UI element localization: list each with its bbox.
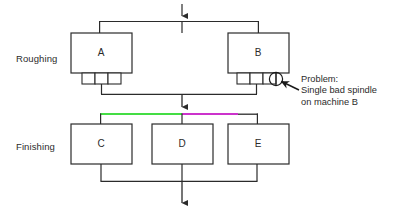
roughing-input-bus: [99, 21, 259, 33]
machine-box-e[interactable]: [228, 124, 289, 181]
machine-a-spindles: [82, 73, 121, 84]
annotation-line-1: Problem:: [301, 74, 377, 85]
finishing-output-bus: [100, 181, 257, 203]
machine-label-c: C: [91, 138, 111, 149]
finishing-input-bus: [100, 114, 258, 124]
machine-box-c[interactable]: [71, 124, 132, 181]
problem-annotation: Problem: Single bad spindle on machine B: [301, 74, 377, 108]
annotation-line-2: Single bad spindle: [301, 85, 377, 96]
machine-label-d: D: [172, 138, 192, 149]
machine-label-e: E: [248, 138, 268, 149]
machine-label-b: B: [248, 47, 268, 58]
stage-label-roughing: Roughing: [16, 53, 57, 64]
diagram-canvas: Roughing Finishing A B C D E Problem: Si…: [0, 0, 399, 213]
machine-label-a: A: [91, 47, 111, 58]
roughing-output-bus: [101, 94, 257, 107]
machine-box-b[interactable]: [228, 33, 289, 94]
machine-box-a[interactable]: [71, 33, 132, 94]
stage-label-finishing: Finishing: [16, 141, 55, 152]
annotation-pointer-arrow: [282, 82, 300, 91]
machine-box-d[interactable]: [152, 124, 213, 181]
annotation-line-3: on machine B: [301, 97, 377, 108]
